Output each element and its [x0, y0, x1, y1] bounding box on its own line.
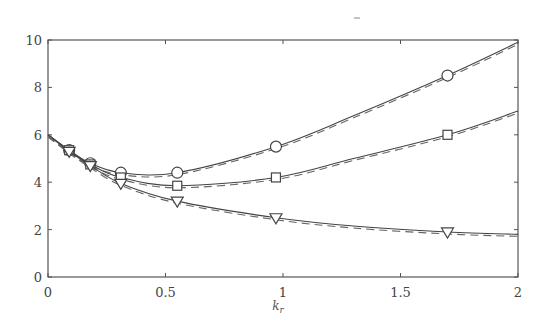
y-tick-label: 4: [34, 175, 42, 190]
triangle-down-marker: [442, 228, 454, 238]
triangle-down-marker: [115, 179, 127, 189]
y-tick-label: 0: [34, 270, 42, 285]
circle-marker: [442, 70, 453, 81]
x-tick-label: 1: [279, 285, 287, 300]
y-tick-label: 2: [34, 223, 42, 238]
series-square: [48, 111, 518, 190]
x-tick-label: 1.5: [390, 285, 411, 300]
series-line-dashed: [48, 44, 518, 177]
x-tick-label: 0.5: [155, 285, 176, 300]
square-marker: [173, 181, 182, 190]
circle-marker: [270, 141, 281, 152]
x-axis-label: kr: [272, 299, 284, 315]
circle-marker: [172, 167, 183, 178]
x-tick-label: 2: [514, 285, 522, 300]
square-marker: [443, 130, 452, 139]
square-marker: [271, 173, 280, 182]
line-chart: 00.511.52 0246810 kr: [0, 0, 546, 333]
x-tick-label: 0: [44, 285, 52, 300]
series-line-solid: [48, 42, 518, 175]
series-circle: [48, 42, 518, 178]
series-layer: [48, 42, 518, 238]
y-tick-label: 6: [34, 128, 42, 143]
series-triangle: [48, 135, 518, 238]
y-tick-label: 10: [25, 33, 42, 48]
y-tick-label: 8: [34, 80, 42, 95]
